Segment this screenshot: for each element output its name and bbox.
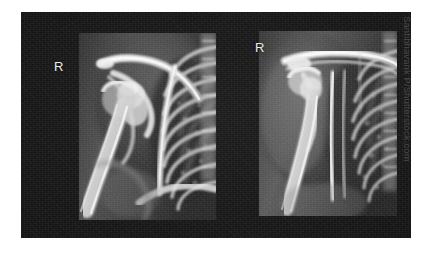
side-marker-left: R bbox=[54, 59, 64, 74]
right-xray-graphic bbox=[259, 31, 397, 216]
screenshot-root: R bbox=[0, 0, 441, 256]
right-radiograph-panel: R bbox=[217, 12, 411, 238]
left-xray-graphic bbox=[79, 33, 216, 220]
credit-watermark: Santibhavank P/Shutterstock.com bbox=[413, 10, 429, 246]
left-radiograph-panel: R bbox=[21, 12, 217, 238]
side-marker-right: R bbox=[255, 40, 265, 55]
right-film-plate bbox=[259, 31, 397, 216]
credit-watermark-text: Santibhavank P/Shutterstock.com bbox=[402, 16, 413, 162]
radiograph-board: R bbox=[21, 12, 411, 238]
left-film-plate bbox=[79, 33, 216, 220]
